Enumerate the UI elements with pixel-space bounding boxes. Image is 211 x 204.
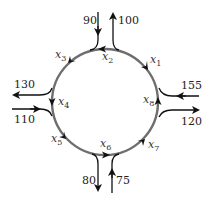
flow-label-130: 130 — [14, 78, 35, 91]
segment-label-x6: x6 — [100, 137, 111, 152]
flow-label-90: 90 — [83, 14, 97, 27]
flow-label-155: 155 — [181, 79, 202, 92]
segment-label-x3: x3 — [55, 48, 66, 63]
flow-label-80: 80 — [82, 174, 96, 187]
segment-label-x8: x8 — [143, 93, 154, 108]
segment-label-x1: x1 — [150, 53, 161, 68]
roundabout-diagram: 90 100 130 110 80 75 155 120 x1 x2 x3 x4… — [0, 0, 211, 204]
segment-label-x5: x5 — [51, 132, 62, 147]
flow-label-100: 100 — [118, 14, 139, 27]
segment-label-x7: x7 — [148, 138, 159, 153]
segment-label-x2: x2 — [102, 50, 113, 65]
flow-label-110: 110 — [14, 113, 35, 126]
flow-label-120: 120 — [181, 115, 202, 128]
segment-label-x4: x4 — [58, 95, 69, 110]
flow-label-75: 75 — [116, 174, 130, 187]
